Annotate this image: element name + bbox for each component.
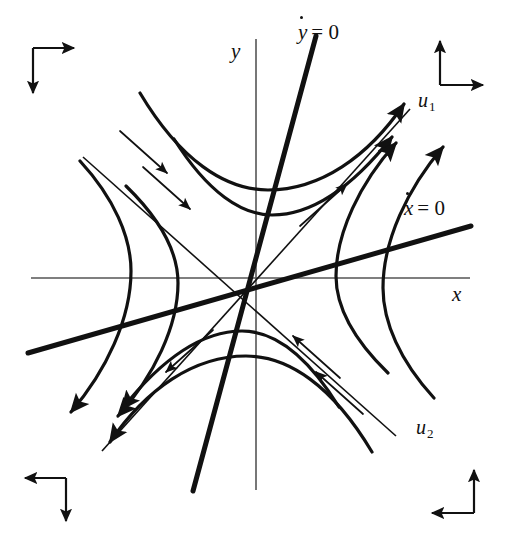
y-dot-accent-icon: y — [298, 22, 307, 43]
x-dot-nullcline-line — [28, 226, 471, 353]
x-dot-variable: x — [404, 196, 413, 220]
corner-indicator-top-left — [33, 48, 74, 93]
trajectory-upper-outer — [140, 93, 404, 190]
corner-indicator-bottom-left — [25, 478, 66, 521]
flow-arrow-outgoing-ll-1 — [166, 330, 213, 372]
y-dot-variable: y — [298, 20, 307, 44]
flow-arrow-group-incoming-upper-left — [120, 131, 190, 209]
trajectory-lower-inner — [122, 331, 339, 409]
flow-arrow-group-outgoing-upper-right — [300, 184, 347, 226]
x-dot-accent-icon: x — [404, 198, 413, 219]
trajectory-group-left — [71, 161, 178, 416]
trajectory-left-outer — [71, 161, 131, 412]
u2-subscript: 2 — [427, 426, 434, 441]
x-axis-label: x — [452, 284, 461, 305]
u1-symbol: u — [418, 89, 428, 111]
corner-indicator-bottom-right — [432, 470, 474, 513]
y-dot-nullcline-line — [193, 36, 316, 491]
u2-eigendirection-label: u2 — [416, 417, 433, 437]
y-dot-equals-zero: = 0 — [311, 20, 339, 44]
u1-eigendirection-label: u1 — [418, 90, 435, 110]
y-axis-label: y — [231, 41, 240, 62]
flow-arrow-outgoing-ur-1 — [300, 184, 347, 226]
corner-indicator-group — [25, 41, 483, 521]
trajectory-right-outer — [383, 147, 443, 398]
u1-subscript: 1 — [429, 99, 436, 114]
u2-symbol: u — [416, 416, 426, 438]
phase-portrait-canvas — [0, 0, 519, 547]
trajectory-group-lower — [110, 331, 372, 452]
x-dot-equals-zero: = 0 — [417, 196, 445, 220]
axes-group — [31, 39, 470, 490]
flow-arrow-group-outgoing-lower-left — [166, 330, 213, 372]
phase-portrait-figure: y x y= 0 x= 0 u1 u2 — [0, 0, 519, 547]
corner-indicator-top-right — [440, 41, 483, 85]
y-dot-nullcline-label: y= 0 — [298, 22, 339, 43]
x-dot-nullcline-label: x= 0 — [404, 198, 445, 219]
